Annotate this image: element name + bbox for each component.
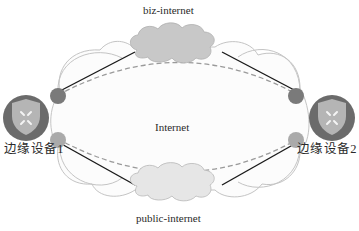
edge1-port-biz[interactable]: [50, 88, 66, 104]
edge2-port-biz[interactable]: [288, 88, 304, 104]
network-diagram: [0, 0, 359, 231]
public-internet-cloud[interactable]: [130, 163, 214, 201]
biz-internet-label: biz-internet: [143, 5, 194, 16]
internet-label: Internet: [155, 122, 189, 133]
edge-device-2[interactable]: [309, 95, 355, 141]
public-internet-label: public-internet: [136, 213, 201, 224]
edge-device-1[interactable]: [3, 95, 49, 141]
edge-device-1-label: 边缘设备1: [4, 143, 64, 156]
edge-device-2-label: 边缘设备2: [297, 143, 357, 156]
biz-internet-cloud[interactable]: [130, 23, 214, 63]
